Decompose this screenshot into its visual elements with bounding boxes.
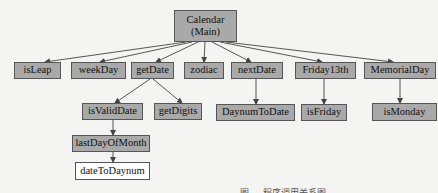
node-getdate: getDate bbox=[131, 62, 174, 79]
node-calendar-main: Calendar (Main) bbox=[174, 10, 237, 42]
node-ismonday: isMonday bbox=[372, 103, 437, 121]
edge-getDate-to-isValidDate bbox=[115, 79, 150, 103]
node-label-sub: (Main) bbox=[191, 26, 220, 38]
edge-calendar-to-memorialDay bbox=[226, 42, 393, 62]
node-label: Calendar bbox=[187, 14, 225, 26]
node-friday13th: Friday13th bbox=[295, 62, 356, 79]
node-getdigits: getDigits bbox=[154, 103, 202, 120]
node-zodiac: zodiac bbox=[184, 62, 224, 79]
node-isfriday: isFriday bbox=[301, 104, 347, 121]
node-isvaliddate: isValidDate bbox=[82, 103, 143, 120]
edge-calendar-to-zodiac bbox=[204, 42, 205, 62]
call-hierarchy-diagram: Calendar (Main) isLeap weekDay getDate z… bbox=[0, 0, 438, 193]
node-datetodaynum: dateToDaynum bbox=[75, 162, 150, 180]
node-daynumtodate: DaynumToDate bbox=[216, 104, 295, 121]
node-isleap: isLeap bbox=[14, 62, 61, 79]
node-nextdate: nextDate bbox=[231, 62, 283, 79]
node-weekday: weekDay bbox=[71, 62, 126, 79]
figure-caption: 图 … 程序调用关系图 bbox=[240, 186, 326, 193]
node-lastdayofmonth: lastDayOfMonth bbox=[72, 135, 150, 152]
node-memorialday: MemorialDay bbox=[364, 62, 436, 79]
edge-getDate-to-getDigits bbox=[153, 79, 182, 103]
edge-calendar-to-nextDate bbox=[212, 42, 251, 62]
